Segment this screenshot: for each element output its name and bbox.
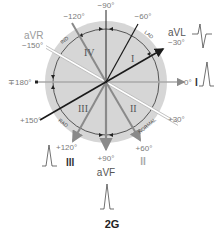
lead-avf-label: aVF: [97, 167, 115, 178]
angle-m60: −60°: [135, 12, 152, 21]
angle-pm180: ∓180°: [8, 78, 32, 87]
avl-complex-icon: [192, 24, 212, 48]
angle-p90: +90°: [98, 154, 115, 163]
angle-m150: −150°: [22, 41, 43, 50]
lead-i-complex-icon: [199, 62, 214, 86]
angle-p150: +150°: [20, 116, 41, 125]
quadrant-iv: IV: [84, 47, 95, 58]
center-point: [105, 81, 107, 83]
quadrant-iii: III: [78, 103, 88, 114]
avf-complex-icon: [100, 184, 114, 209]
figure-label: 2G: [105, 218, 120, 230]
angle-m120: −120°: [63, 12, 84, 21]
quadrant-i: I: [131, 53, 134, 64]
angle-p30: +30°: [168, 115, 185, 124]
lead-avr-label: aVR: [24, 30, 43, 41]
lead-iii-label: III: [66, 157, 75, 168]
angle-p120: +120°: [56, 143, 77, 152]
angle-p60: +60°: [136, 144, 153, 153]
lead-i-label: I: [195, 77, 198, 88]
lead-ii-label: II: [140, 156, 146, 167]
lead-iii-complex-icon: [42, 145, 57, 166]
axis-180-tick: [35, 81, 38, 84]
hexaxial-diagram: −90° −120° −60° −150° −30° ∓180° 0° +150…: [0, 0, 216, 233]
quadrant-ii: II: [130, 103, 137, 114]
angle-m30: −30°: [168, 38, 185, 47]
lead-avl-label: aVL: [168, 27, 186, 38]
angle-m90: −90°: [98, 1, 115, 10]
angle-0: 0°: [184, 78, 192, 87]
